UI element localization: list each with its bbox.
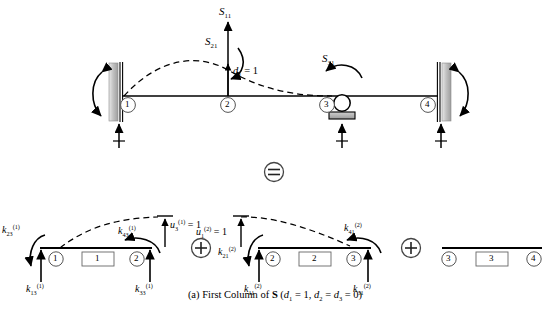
figure-vector xyxy=(0,0,550,321)
element1-node2-label: 2 xyxy=(134,254,139,263)
reaction-vertical-right xyxy=(435,124,447,148)
reaction-moment-left xyxy=(93,72,102,116)
top-node-4-label: 4 xyxy=(425,100,430,109)
element1-node1-label: 1 xyxy=(53,254,58,263)
element1-k23-label: k23(1) xyxy=(2,224,20,238)
moment-S31-label: S31 xyxy=(322,53,334,67)
operator-equals-icon xyxy=(265,163,284,182)
element3-node4-label: 4 xyxy=(531,254,536,263)
displacement-d1-label: d1 = 1 xyxy=(233,66,258,79)
caption-eq1: = 1, xyxy=(292,289,314,300)
operator-plus-1-icon xyxy=(192,239,211,258)
moment-S31-arrow xyxy=(326,65,362,78)
element1-k23-arrow xyxy=(30,235,45,266)
element2-k21-arrow xyxy=(248,235,263,266)
reaction-vertical-left xyxy=(113,124,125,148)
element1-k43-label: k43(1) xyxy=(118,225,136,239)
caption-text-a: (a) First Column of xyxy=(188,289,272,300)
reaction-moment-right xyxy=(459,72,468,116)
reaction-vertical-node3 xyxy=(336,124,348,148)
caption-eq2: = xyxy=(323,289,334,300)
figure-container: 1 2 3 4 S11 S21 S31 d1 = 1 1 2 1 k23(1) … xyxy=(0,0,550,321)
element2-id-label: 2 xyxy=(312,254,317,263)
moment-S21-label: S21 xyxy=(205,36,217,50)
support-fixed-left xyxy=(109,62,123,122)
figure-caption: (a) First Column of S (d1 = 1, d2 = d3 =… xyxy=(0,289,550,302)
support-fixed-right xyxy=(437,62,451,122)
caption-eq3: = 0) xyxy=(342,289,362,300)
element2-k41-label: k41(2) xyxy=(344,222,362,236)
top-node-3-label: 3 xyxy=(324,100,329,109)
element3-id-label: 3 xyxy=(489,254,494,263)
top-node-2-label: 2 xyxy=(225,100,230,109)
element3-node3-label: 3 xyxy=(446,254,451,263)
element1-deflected-shape xyxy=(60,217,158,248)
force-S11-label: S11 xyxy=(219,6,231,20)
element2-node3-label: 3 xyxy=(351,254,356,263)
element2-k41-arrow xyxy=(347,238,381,253)
element1-id-label: 1 xyxy=(95,254,100,263)
element2-u1-label: u1(2) = 1 xyxy=(196,226,227,240)
top-node-1-label: 1 xyxy=(125,100,130,109)
element2-deflected-shape xyxy=(241,217,350,246)
element2-k21-label: k21(2) xyxy=(218,246,236,260)
node-markers-top xyxy=(121,98,436,113)
element2-node2-label: 2 xyxy=(270,254,275,263)
element1-k43-arrow xyxy=(125,238,160,253)
operator-plus-2-icon xyxy=(402,239,421,258)
